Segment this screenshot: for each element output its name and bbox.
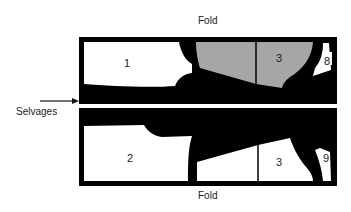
selvages-arrow-icon (40, 98, 79, 104)
piece-1-number: 1 (124, 57, 130, 69)
lower-fabric-panel (79, 108, 337, 186)
piece-3-lower-number: 3 (276, 156, 282, 168)
piece-1 (84, 42, 192, 87)
piece-8-number: 8 (324, 55, 330, 67)
piece-9-number: 9 (323, 152, 329, 164)
piece-3-upper-number: 3 (276, 52, 282, 64)
upper-fabric-panel (79, 37, 337, 104)
piece-2-number: 2 (127, 152, 133, 164)
fabric-layout-diagram: 1 3 8 2 3 9 (0, 0, 351, 212)
